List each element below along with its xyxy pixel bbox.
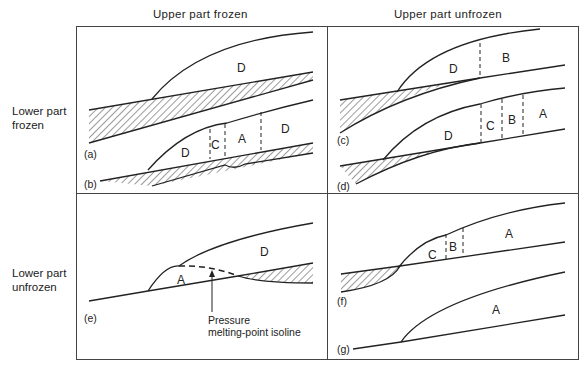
frozen-bed-hatch — [89, 72, 313, 143]
panel-caption: (e) — [84, 312, 97, 324]
panel-caption: (d) — [337, 180, 350, 192]
zone-label: A — [238, 132, 246, 146]
zone-label: D — [237, 61, 246, 75]
zone-label: D — [444, 129, 453, 143]
zone-label: C — [428, 248, 437, 262]
zone-label: C — [486, 119, 495, 133]
frozen-bed-hatch — [340, 78, 480, 133]
panel-caption: (g) — [337, 343, 350, 355]
zone-label: A — [492, 303, 500, 317]
zone-label: D — [181, 146, 190, 160]
zone-label: D — [260, 245, 269, 259]
panel-caption: (a) — [84, 148, 97, 160]
zone-label: B — [508, 113, 516, 127]
zone-label: A — [539, 107, 547, 121]
glacier-surface — [397, 29, 540, 92]
panel-frame — [76, 26, 579, 360]
zone-label: A — [505, 227, 513, 241]
panel-caption: (f) — [337, 295, 347, 307]
panel-f: C B A (f) — [337, 203, 565, 307]
zone-label: D — [281, 122, 290, 136]
zone-label: B — [449, 240, 457, 254]
frozen-bed-hatch — [100, 143, 313, 186]
panel-caption: (c) — [337, 134, 349, 146]
annotation-text: Pressure — [208, 314, 250, 326]
pressure-melting-isoline — [179, 266, 238, 276]
panel-caption: (b) — [84, 178, 97, 190]
zone-label: B — [502, 51, 510, 65]
glacier-thermal-regime-diagram: D (a) D C A D (b) D B (c) — [0, 0, 588, 371]
panel-a: D (a) — [84, 32, 313, 160]
zone-label: A — [177, 273, 185, 287]
glacier-surface — [401, 272, 565, 342]
zone-label: D — [449, 62, 458, 76]
panel-e: A D (e) Pressure melting-point isoline — [84, 223, 313, 338]
frozen-bed-hatch — [340, 143, 480, 184]
frozen-bed-hatch — [238, 263, 313, 283]
annotation-text: melting-point isoline — [208, 326, 301, 338]
glacier-surface — [398, 203, 565, 268]
zone-label: C — [211, 138, 220, 152]
